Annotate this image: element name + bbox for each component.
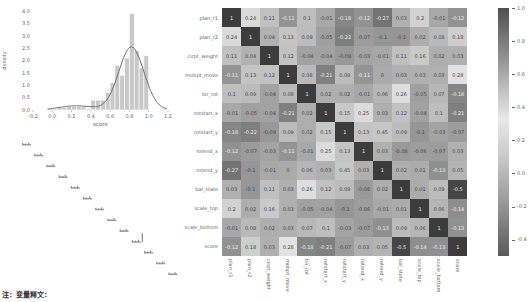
heatmap-cell: 0.09 <box>297 27 316 47</box>
heatmap-cell: 1 <box>279 65 298 85</box>
heatmap-cell: -0.01 <box>373 46 392 66</box>
heatmap-cell: 0.03 <box>448 46 467 66</box>
column-label: scale_bottom <box>436 259 442 292</box>
heatmap-cell: 0.05 <box>373 237 392 257</box>
heatmap-cell: -0.09 <box>335 46 354 66</box>
heatmap-cell: 0.04 <box>260 27 279 47</box>
heatmap-cell: -0.01 <box>222 103 241 123</box>
heatmap-cell: -0.21 <box>448 103 467 123</box>
heatmap-cell: -0.03 <box>354 46 373 66</box>
heatmap-cell: 0.02 <box>316 84 335 104</box>
heatmap-cell: -0.08 <box>354 180 373 200</box>
heatmap-cell: 0.1 <box>297 8 316 28</box>
heatmap-cell: 1 <box>354 142 373 162</box>
heatmap-cell: 0.09 <box>335 180 354 200</box>
heatmap-cell: 0.11 <box>260 180 279 200</box>
row-label: mobpt_move <box>158 72 218 78</box>
histogram-bar <box>129 13 134 110</box>
heatmap-cell: -0.06 <box>354 199 373 219</box>
heatmap-cell: 0.13 <box>354 122 373 142</box>
x-tick-label: 0.8 <box>125 113 133 119</box>
colorbar-tick-label: -0.4 <box>512 236 527 242</box>
heatmap-cell: 0.03 <box>222 180 241 200</box>
heatmap-cell: 0.01 <box>410 180 429 200</box>
heatmap-cell: -0.04 <box>297 46 316 66</box>
heatmap-cell: 0.07 <box>429 84 448 104</box>
heatmap-cell: 0.06 <box>410 218 429 238</box>
histogram-bar <box>110 83 115 110</box>
heatmap-cell: 1 <box>392 180 411 200</box>
column-label: cirpt_weight <box>266 259 272 290</box>
column-label: rotend_y <box>379 259 385 281</box>
heatmap-cell: -0.1 <box>373 27 392 47</box>
heatmap-cell: 1 <box>410 199 429 219</box>
histogram-bar <box>86 109 91 110</box>
heatmap-cell: -0.18 <box>222 122 241 142</box>
y-tick-label: 3.5 <box>22 20 30 26</box>
histogram-bar <box>134 51 139 110</box>
heatmap-cell: -0.18 <box>335 8 354 28</box>
column-label: plan_r2 <box>247 259 253 278</box>
heatmap-cell: -0.05 <box>241 103 260 123</box>
heatmap-cell: 0.28 <box>448 65 467 85</box>
heatmap-cell: -0.01 <box>297 142 316 162</box>
heatmap-cell: 0.03 <box>448 142 467 162</box>
mini-histogram <box>132 233 143 242</box>
colorbar-tick-label: 1.0 <box>512 5 525 11</box>
heatmap-cell: 1 <box>260 46 279 66</box>
heatmap-cell: 0.03 <box>279 199 298 219</box>
heatmap-cell: 0 <box>279 161 298 181</box>
heatmap-cell: 0.12 <box>279 46 298 66</box>
heatmap-cell: -0.04 <box>410 103 429 123</box>
x-tick-label: 0.6 <box>106 113 114 119</box>
heatmap-cell: -0.5 <box>448 180 467 200</box>
column-label: score <box>455 259 461 272</box>
heatmap-cell: -0.22 <box>335 27 354 47</box>
heatmap-cell: 1 <box>297 84 316 104</box>
heatmap-cell: -0.11 <box>222 65 241 85</box>
y-tick-label: 2.5 <box>22 45 30 51</box>
histogram-bar <box>72 106 77 110</box>
heatmap-cell: -0.12 <box>222 237 241 257</box>
heatmap-cell: -0.5 <box>392 237 411 257</box>
column-label: bir_rot <box>304 259 310 275</box>
mini-histogram <box>34 153 43 156</box>
heatmap-cell: 1 <box>222 8 241 28</box>
heatmap-cell: -0.01 <box>354 84 373 104</box>
heatmap-cell: 0.2 <box>222 199 241 219</box>
heatmap-cell: 0.12 <box>316 180 335 200</box>
row-label: plan_r2 <box>158 34 218 40</box>
heatmap-cell: 0 <box>373 65 392 85</box>
mini-histogram <box>144 251 153 254</box>
colorbar-tick-label: -0.2 <box>512 203 527 209</box>
heatmap-cell: -0.1 <box>241 161 260 181</box>
column-label: scale_top <box>417 259 423 283</box>
heatmap-cell: 0.24 <box>222 27 241 47</box>
heatmap-cell: -0.13 <box>429 237 448 257</box>
heatmap-cell: -0.11 <box>279 8 298 28</box>
heatmap-cell: -0.01 <box>222 218 241 238</box>
heatmap-cell: -0.07 <box>241 142 260 162</box>
heatmap-cell: -0.07 <box>354 218 373 238</box>
histogram-bar <box>125 58 130 110</box>
y-tick-label: 1.5 <box>22 70 30 76</box>
heatmap-cell: 0.05 <box>448 161 467 181</box>
heatmap-cell: -0.22 <box>241 122 260 142</box>
y-tick-label: 1.0 <box>22 82 30 88</box>
heatmap-cell: 0.04 <box>241 46 260 66</box>
heatmap-cell: 0.16 <box>410 46 429 66</box>
colorbar <box>498 8 509 256</box>
histogram-bar <box>52 109 57 110</box>
heatmap-cell: -0.07 <box>429 142 448 162</box>
heatmap-cell: -0.04 <box>260 84 279 104</box>
heatmap-cell: 0.02 <box>260 218 279 238</box>
heatmap-cell: 0.03 <box>354 237 373 257</box>
heatmap-cell: -0.21 <box>316 237 335 257</box>
heatmap-cell: -0.18 <box>297 237 316 257</box>
heatmap-cell: 0.02 <box>335 84 354 104</box>
heatmap-cell: 0.09 <box>241 84 260 104</box>
x-axis-label: score <box>93 121 108 127</box>
colorbar-tick-label: 0.4 <box>512 104 525 110</box>
heatmap-cell: -0.18 <box>448 84 467 104</box>
mini-histogram <box>83 197 92 200</box>
